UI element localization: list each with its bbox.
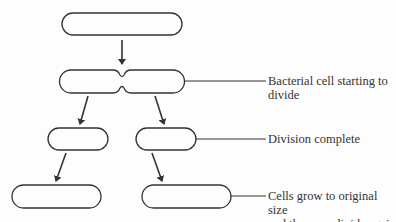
arrow-down-left-icon [80,96,88,124]
original-cell [62,13,182,35]
grown-cell-left [12,185,101,208]
label-dividing: Bacterial cell starting to divide [268,74,388,102]
label-dividing-line1: Bacterial cell starting to [268,74,388,88]
label-grown-line2: and then can divide again [268,217,396,222]
daughter-cell-left [48,128,108,150]
label-grown: Cells grow to original size and then can… [268,189,396,222]
grown-cell-right [142,185,231,208]
daughter-cell-right [136,128,196,150]
arrow-down-right-icon [155,96,164,124]
label-division-complete-text: Division complete [268,132,360,146]
arrow-down-right-icon [152,153,162,181]
label-division-complete: Division complete [268,132,360,146]
label-dividing-line2: divide [268,88,388,102]
arrow-down-left-icon [56,153,66,181]
dividing-cell [60,70,185,93]
label-grown-line1: Cells grow to original size [268,189,396,217]
